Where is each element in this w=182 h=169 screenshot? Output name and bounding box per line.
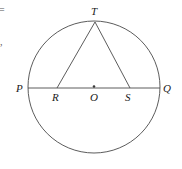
vertex-label-t: T [91,6,97,17]
vertex-label-s: S [125,92,131,103]
vertex-label-r: R [52,92,59,103]
chord-segment-ts [95,22,130,88]
vertex-label-o: O [90,92,98,103]
vertex-label-q: Q [163,83,171,94]
geometry-drawing-canvas [0,0,182,169]
vertex-label-p: P [16,83,23,94]
chord-segment-tr [57,22,95,88]
center-point-dot [93,85,96,88]
circle-geometry-figure: = , P R O S Q T [0,0,182,169]
